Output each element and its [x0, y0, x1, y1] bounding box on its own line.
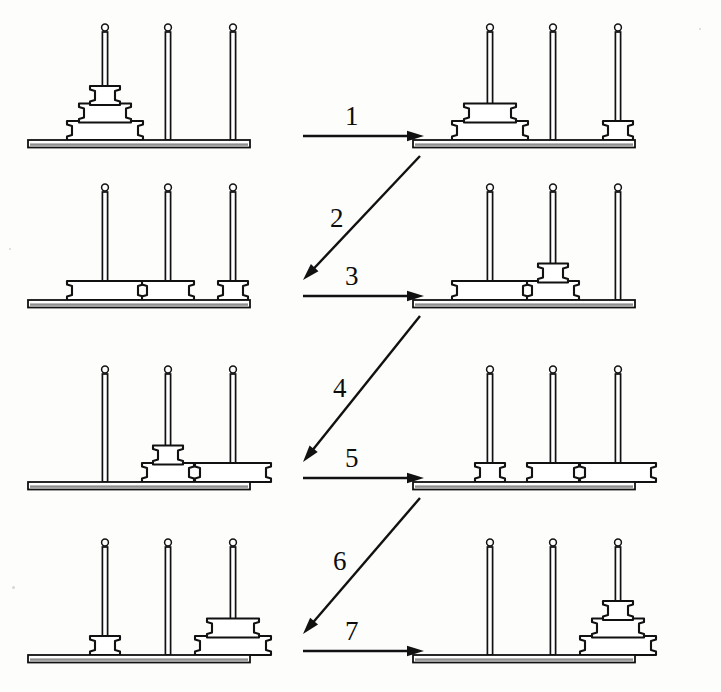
- disk-medium: [142, 463, 194, 482]
- hanoi-board-6: [28, 525, 274, 671]
- hanoi-board-5: [413, 352, 659, 498]
- peg-b: [550, 539, 557, 655]
- step-number-label-2: 2: [330, 205, 344, 232]
- peg-c: [230, 24, 237, 140]
- disk-large: [452, 281, 528, 300]
- step-number-label-4: 4: [333, 375, 347, 402]
- base-plank: [28, 140, 250, 148]
- base-plank: [28, 482, 250, 490]
- disk-large: [580, 463, 656, 482]
- step-arrow-7: [281, 629, 446, 673]
- peg-a: [102, 366, 109, 482]
- peg-b: [165, 24, 172, 140]
- step-number-label-7: 7: [345, 618, 359, 645]
- base-plank: [28, 300, 250, 308]
- peg-c: [615, 184, 622, 300]
- disk-large: [580, 636, 656, 655]
- disk-medium: [527, 463, 579, 482]
- disk-large: [195, 463, 271, 482]
- disk-medium: [142, 281, 194, 300]
- step-number-label-1: 1: [345, 103, 359, 130]
- disk-large: [195, 636, 271, 655]
- step-number-label-5: 5: [345, 445, 359, 472]
- base-plank: [413, 482, 635, 490]
- disk-small: [475, 463, 505, 482]
- base-plank: [413, 140, 635, 148]
- scan-speck-2: [9, 248, 11, 250]
- hanoi-board-0: [28, 10, 274, 156]
- hanoi-board-4: [28, 352, 274, 498]
- step-number-label-6: 6: [333, 548, 347, 575]
- disk-large: [67, 121, 143, 140]
- disk-small: [218, 281, 248, 300]
- disk-small: [90, 86, 120, 105]
- hanoi-board-3: [413, 170, 659, 316]
- scan-speck-1: [699, 28, 701, 30]
- disk-medium: [464, 104, 516, 123]
- disk-small: [603, 601, 633, 620]
- disk-medium: [527, 281, 579, 300]
- disk-medium: [79, 104, 131, 123]
- hanoi-board-7: [413, 525, 659, 671]
- disk-large: [452, 121, 528, 140]
- hanoi-figure: 1234567: [0, 0, 721, 692]
- peg-a: [487, 539, 494, 655]
- disk-small: [153, 446, 183, 465]
- base-plank: [413, 655, 635, 663]
- disk-small: [538, 264, 568, 283]
- base-plank: [28, 655, 250, 663]
- disk-large: [67, 281, 143, 300]
- peg-b: [550, 24, 557, 140]
- scan-speck-0: [12, 586, 15, 589]
- disk-medium: [207, 619, 259, 638]
- hanoi-board-2: [28, 170, 274, 316]
- disk-small: [603, 121, 633, 140]
- disk-medium: [592, 619, 644, 638]
- base-plank: [413, 300, 635, 308]
- disk-small: [90, 636, 120, 655]
- peg-b: [165, 539, 172, 655]
- step-number-label-3: 3: [345, 263, 359, 290]
- hanoi-board-1: [413, 10, 659, 156]
